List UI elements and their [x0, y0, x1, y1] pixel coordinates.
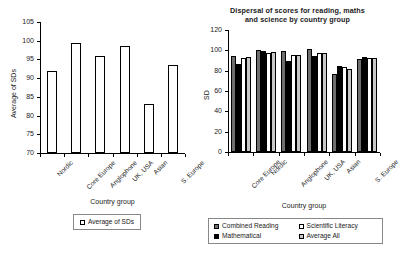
x-axis-tick	[40, 154, 41, 157]
y-axis-tick-label: 100	[202, 46, 222, 53]
legend-item: Mathematical	[214, 232, 293, 240]
bar	[144, 104, 154, 153]
y-axis-tick-label: 80	[14, 112, 34, 119]
x-axis-tick	[253, 153, 254, 156]
bar	[168, 65, 178, 153]
legend-item: Average All	[299, 232, 378, 240]
left-chart-panel: Average of SDs 707580859095100105NordicC…	[0, 0, 197, 259]
right-plot-area: 020406080100120Core EuropeNordicAnglopho…	[228, 30, 380, 152]
y-axis-tick	[225, 111, 228, 112]
y-axis-tick	[37, 41, 40, 42]
y-axis-tick	[225, 30, 228, 31]
legend-swatch-icon	[80, 220, 85, 225]
y-axis-line	[228, 30, 229, 152]
x-axis-tick-label: Asian	[345, 158, 362, 175]
y-axis-tick-label: 90	[14, 74, 34, 81]
x-axis-tick	[137, 154, 138, 157]
bar	[47, 71, 57, 153]
x-axis-tick	[329, 153, 330, 156]
right-legend: Combined Reading Scientific Literacy Mat…	[208, 218, 383, 244]
y-axis-tick-label: 40	[202, 107, 222, 114]
legend-item: Scientific Literacy	[299, 222, 378, 230]
x-axis-tick	[185, 154, 186, 157]
x-axis-tick-label: S. Europe	[374, 158, 400, 184]
y-axis-tick	[225, 132, 228, 133]
left-legend: Average of SDs	[73, 214, 141, 230]
x-axis-tick	[355, 153, 356, 156]
legend-item: Combined Reading	[214, 222, 293, 230]
legend-label: Average All	[307, 232, 340, 240]
left-plot-area: 707580859095100105NordicCore EuropeAnglo…	[40, 22, 185, 153]
y-axis-tick	[225, 71, 228, 72]
right-x-axis-label: Country group	[228, 202, 380, 209]
y-axis-tick-label: 120	[202, 26, 222, 33]
right-chart-title-line1: Dispersal of scores for reading, maths	[205, 6, 390, 15]
y-axis-tick-label: 105	[14, 18, 34, 25]
y-axis-tick	[37, 116, 40, 117]
y-axis-tick-label: 0	[202, 148, 222, 155]
bar	[120, 46, 130, 153]
x-axis-tick	[380, 153, 381, 156]
y-axis-tick	[37, 22, 40, 23]
bar	[296, 55, 301, 152]
y-axis-tick	[225, 91, 228, 92]
legend-swatch-icon	[214, 234, 219, 239]
y-axis-tick	[37, 78, 40, 79]
legend-label: Scientific Literacy	[307, 222, 358, 230]
legend-label: Average of SDs	[88, 218, 134, 226]
legend-swatch-icon	[299, 224, 304, 229]
bar	[322, 53, 327, 152]
x-axis-tick	[161, 154, 162, 157]
right-chart-title-line2: and science by country group	[205, 15, 390, 24]
x-axis-tick-label: Nordic	[56, 159, 74, 177]
bar	[71, 43, 81, 153]
y-axis-line	[40, 22, 41, 153]
x-axis-tick	[64, 154, 65, 157]
left-x-axis-label: Country group	[40, 198, 185, 205]
y-axis-tick-label: 20	[202, 128, 222, 135]
bar	[271, 52, 276, 152]
right-chart-title: Dispersal of scores for reading, maths a…	[205, 6, 390, 24]
y-axis-tick-label: 75	[14, 130, 34, 137]
legend-item: Average of SDs	[80, 218, 134, 226]
y-axis-tick	[225, 50, 228, 51]
bar	[246, 57, 251, 152]
x-axis-tick	[304, 153, 305, 156]
y-axis-tick	[37, 134, 40, 135]
y-axis-tick	[37, 59, 40, 60]
legend-label: Mathematical	[222, 232, 261, 240]
y-axis-tick-label: 60	[202, 87, 222, 94]
y-axis-tick-label: 95	[14, 55, 34, 62]
bar	[95, 56, 105, 153]
y-axis-tick-label: 85	[14, 93, 34, 100]
x-axis-tick	[88, 154, 89, 157]
y-axis-tick-label: 70	[14, 149, 34, 156]
x-axis-tick-label: Asian	[152, 159, 169, 176]
legend-swatch-icon	[299, 234, 304, 239]
x-axis-tick	[113, 154, 114, 157]
y-axis-tick-label: 100	[14, 37, 34, 44]
right-chart-panel: Dispersal of scores for reading, maths a…	[197, 0, 394, 259]
legend-swatch-icon	[214, 224, 219, 229]
x-axis-tick	[228, 153, 229, 156]
x-axis-tick	[279, 153, 280, 156]
bar	[347, 69, 352, 152]
legend-label: Combined Reading	[222, 222, 278, 230]
y-axis-tick-label: 80	[202, 67, 222, 74]
bar	[372, 58, 377, 152]
y-axis-tick	[37, 97, 40, 98]
